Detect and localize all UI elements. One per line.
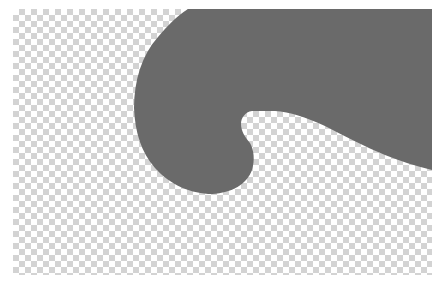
gray-shape-path [134, 9, 432, 194]
hook-wave-shape [0, 0, 443, 283]
